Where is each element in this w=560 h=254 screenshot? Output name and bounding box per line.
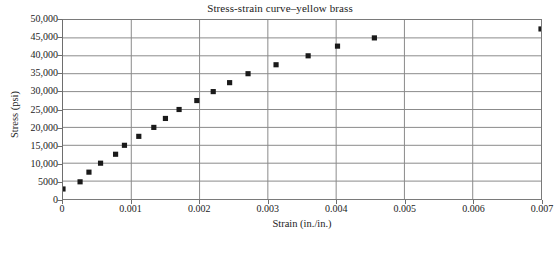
x-tick-mark: [542, 200, 543, 204]
y-axis-title: Stress (psi): [9, 55, 20, 175]
x-tick-mark: [336, 200, 337, 204]
data-point-marker: [273, 62, 278, 67]
x-tick-mark: [405, 200, 406, 204]
data-point-marker: [98, 161, 103, 166]
x-tick-label: 0.004: [306, 203, 366, 214]
chart-figure: Stress-strain curve–yellow brass 0500010…: [0, 0, 560, 254]
x-tick-mark: [62, 200, 63, 204]
data-point-marker: [335, 44, 340, 49]
x-tick-label: 0.006: [443, 203, 503, 214]
x-tick-mark: [131, 200, 132, 204]
data-point-marker: [63, 186, 66, 191]
x-tick-mark: [199, 200, 200, 204]
x-tick-label: 0.005: [375, 203, 435, 214]
data-point-marker: [151, 125, 156, 130]
x-tick-mark: [268, 200, 269, 204]
x-tick-label: 0.007: [512, 203, 560, 214]
y-axis-title-holder: Stress (psi): [6, 14, 20, 200]
x-tick-label: 0: [32, 203, 92, 214]
data-point-marker: [113, 152, 118, 157]
data-point-marker: [211, 89, 216, 94]
data-point-marker: [122, 143, 127, 148]
data-point-marker: [176, 107, 181, 112]
data-point-marker: [163, 116, 168, 121]
x-tick-label: 0.002: [169, 203, 229, 214]
plot-area: [62, 19, 542, 200]
data-point-marker: [538, 26, 541, 31]
data-point-marker: [86, 170, 91, 175]
data-point-marker: [194, 98, 199, 103]
data-point-marker: [227, 80, 232, 85]
x-tick-label: 0.001: [101, 203, 161, 214]
data-point-marker: [306, 53, 311, 58]
data-point-marker: [136, 134, 141, 139]
plot-canvas: [63, 20, 541, 199]
data-point-marker: [245, 71, 250, 76]
x-tick-label: 0.003: [238, 203, 298, 214]
data-point-marker: [372, 35, 377, 40]
x-axis-title: Strain (in./in.): [62, 218, 542, 229]
x-tick-mark: [473, 200, 474, 204]
data-point-marker: [77, 179, 82, 184]
